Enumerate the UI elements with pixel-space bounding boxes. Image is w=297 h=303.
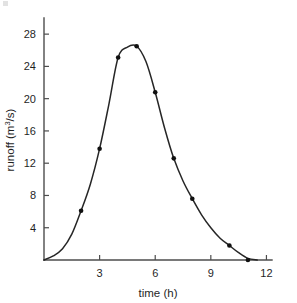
data-point: [171, 156, 176, 161]
y-tick-label: 20: [24, 93, 36, 105]
y-axis-group: 481216202428: [24, 18, 49, 260]
y-tick-label: 24: [24, 60, 36, 72]
data-point: [227, 243, 232, 248]
x-tick-label: 12: [260, 267, 272, 279]
y-axis-title-tail: /s): [4, 108, 16, 121]
runoff-curve: [44, 45, 257, 260]
y-axis-title: runoff (m3/s): [3, 108, 16, 171]
data-point: [246, 258, 251, 263]
x-axis-group: 36912: [44, 255, 273, 279]
x-tick-marks: [100, 255, 267, 260]
y-tick-label: 4: [30, 222, 36, 234]
x-tick-label: 6: [152, 267, 158, 279]
data-point: [97, 146, 102, 151]
data-point: [116, 55, 121, 60]
svg-text:runoff (m3/s): runoff (m3/s): [3, 108, 16, 171]
x-tick-labels: 36912: [97, 267, 273, 279]
y-tick-label: 16: [24, 125, 36, 137]
y-tick-labels: 481216202428: [24, 28, 36, 234]
y-tick-label: 28: [24, 28, 36, 40]
y-tick-label: 12: [24, 157, 36, 169]
x-axis-title: time (h): [139, 287, 178, 299]
x-tick-label: 9: [208, 267, 214, 279]
data-point: [190, 196, 195, 201]
y-axis-title-main: runoff (m: [4, 126, 16, 172]
data-point: [153, 90, 158, 95]
y-tick-marks: [44, 34, 49, 228]
x-tick-label: 3: [97, 267, 103, 279]
data-point: [134, 44, 139, 49]
data-point: [79, 208, 84, 213]
runoff-hydrograph-chart: 481216202428 36912 time (h) runoff (m3/s…: [0, 0, 297, 303]
chart-canvas: 481216202428 36912 time (h) runoff (m3/s…: [0, 0, 297, 303]
y-tick-label: 8: [30, 189, 36, 201]
data-point-markers: [79, 44, 250, 262]
